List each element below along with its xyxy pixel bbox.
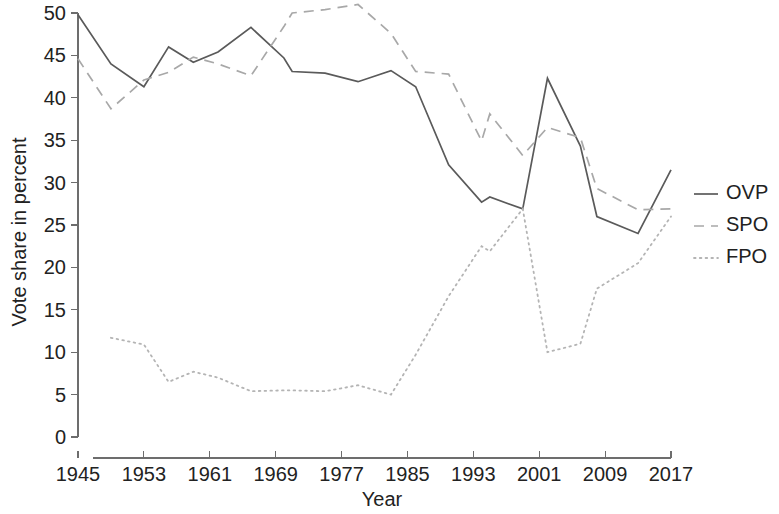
- y-axis-tick-label: 25: [44, 214, 66, 236]
- series-line-ovp: [78, 15, 671, 234]
- y-axis-tick-label: 10: [44, 341, 66, 363]
- y-axis-tick-label: 5: [55, 384, 66, 406]
- x-axis-tick-label: 2009: [583, 463, 628, 485]
- x-axis-tick-label: 1985: [385, 463, 430, 485]
- x-axis-tick-label: 1977: [319, 463, 364, 485]
- x-axis-tick-label: 1961: [188, 463, 233, 485]
- x-axis: 1945195319611969197719851993200120092017: [56, 451, 694, 485]
- x-axis-tick-label: 2001: [517, 463, 562, 485]
- legend-label-fpo: FPO: [726, 245, 767, 267]
- y-axis-tick-label: 35: [44, 129, 66, 151]
- y-axis-tick-label: 45: [44, 44, 66, 66]
- series-line-spo: [78, 5, 671, 210]
- y-axis-tick-label: 50: [44, 2, 66, 24]
- y-axis-title: Vote share in percent: [8, 137, 30, 326]
- line-chart: 05101520253035404550 1945195319611969197…: [0, 0, 779, 514]
- legend-label-spo: SPO: [726, 213, 768, 235]
- x-axis-title: Year: [362, 488, 403, 510]
- y-axis-tick-label: 20: [44, 256, 66, 278]
- data-series-group: [78, 5, 671, 395]
- y-axis: 05101520253035404550: [44, 2, 78, 448]
- series-line-fpo: [111, 209, 671, 395]
- y-axis-tick-label: 30: [44, 172, 66, 194]
- x-axis-tick-label: 1993: [451, 463, 496, 485]
- y-axis-tick-label: 40: [44, 87, 66, 109]
- x-axis-tick-label: 1945: [56, 463, 101, 485]
- x-axis-tick-label: 1969: [253, 463, 298, 485]
- legend-label-ovp: OVP: [726, 181, 768, 203]
- chart-container: 05101520253035404550 1945195319611969197…: [0, 0, 779, 514]
- x-axis-tick-label: 1953: [122, 463, 167, 485]
- chart-legend: OVPSPOFPO: [694, 181, 768, 267]
- x-axis-tick-label: 2017: [649, 463, 694, 485]
- y-axis-tick-label: 0: [55, 426, 66, 448]
- y-axis-tick-label: 15: [44, 299, 66, 321]
